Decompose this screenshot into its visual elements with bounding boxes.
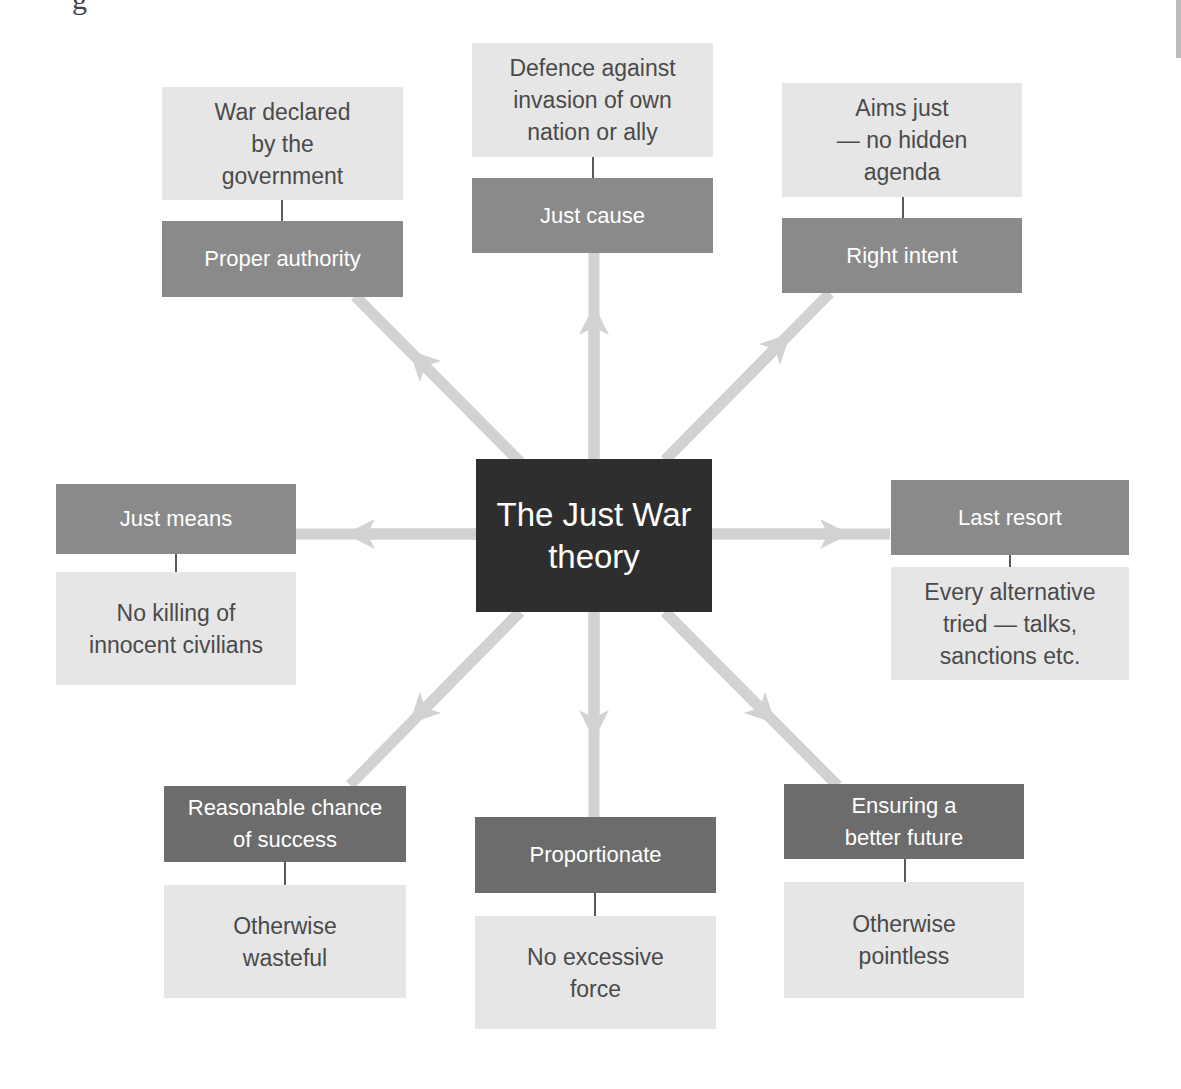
just-cause-description: Defence against invasion of own nation o… (472, 43, 713, 157)
connector (904, 859, 906, 882)
just-means-description: No killing of innocent civilians (56, 572, 296, 685)
connector (1009, 555, 1011, 567)
center-node: The Just War theory (476, 459, 712, 612)
last-resort-label: Last resort (891, 480, 1129, 555)
proportionate-description: No excessive force (475, 916, 716, 1029)
better-future-label: Ensuring a better future (784, 784, 1024, 859)
connector (902, 197, 904, 218)
proper-authority-label: Proper authority (162, 221, 403, 297)
last-resort-description: Every alternative tried — talks, sanctio… (891, 567, 1129, 680)
just-cause-label: Just cause (472, 178, 713, 253)
connector (175, 554, 177, 572)
right-intent-label: Right intent (782, 218, 1022, 293)
proportionate-label: Proportionate (475, 817, 716, 893)
connector (281, 200, 283, 221)
connector (594, 893, 596, 916)
reasonable-chance-label: Reasonable chance of success (164, 786, 406, 862)
connector (284, 862, 286, 885)
proper-authority-description: War declared by the government (162, 87, 403, 200)
reasonable-chance-description: Otherwise wasteful (164, 885, 406, 998)
better-future-description: Otherwise pointless (784, 882, 1024, 998)
just-war-diagram: g (0, 0, 1181, 1089)
connector (592, 157, 594, 178)
just-means-label: Just means (56, 484, 296, 554)
right-intent-description: Aims just — no hidden agenda (782, 83, 1022, 197)
